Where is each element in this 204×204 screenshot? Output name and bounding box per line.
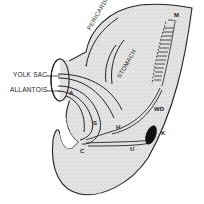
- label-u: U: [130, 146, 134, 152]
- label-yolk-sac: YOLK SAC: [13, 72, 47, 79]
- embryo-diagram: [0, 0, 204, 204]
- label-a: A: [69, 90, 73, 96]
- label-k: K: [161, 130, 165, 136]
- label-c: C: [80, 148, 84, 154]
- label-m: M: [174, 12, 179, 18]
- label-h: H: [116, 124, 120, 130]
- label-s: S: [93, 120, 97, 126]
- label-allantois: ALLANTOIS: [10, 87, 47, 94]
- label-wd: WD: [154, 106, 164, 112]
